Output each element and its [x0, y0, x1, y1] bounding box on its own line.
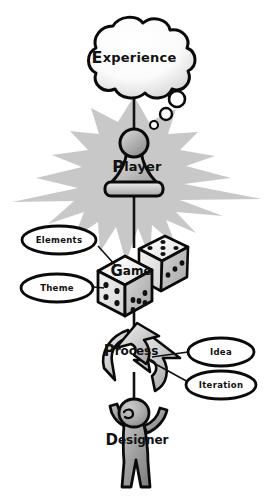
pawn-head: [120, 129, 148, 157]
diagram-canvas: Experience Player: [0, 0, 268, 501]
game-node[interactable]: Game: [98, 236, 188, 316]
callout-iteration[interactable]: Iteration: [186, 371, 256, 399]
leader-line-theme: [94, 287, 104, 288]
experience-node[interactable]: Experience: [89, 17, 196, 98]
diagram-svg: Experience Player: [0, 0, 268, 501]
process-node[interactable]: Process: [103, 323, 180, 391]
process-label: Process: [104, 342, 159, 360]
thought-bubble-large: [169, 91, 185, 107]
callout-elements-label: Elements: [36, 235, 83, 245]
thought-bubble-small: [150, 121, 158, 129]
pawn-base: [105, 182, 163, 196]
callout-idea[interactable]: Idea: [188, 338, 254, 366]
leader-line-elements: [98, 246, 116, 266]
callout-theme[interactable]: Theme: [21, 274, 93, 302]
callout-idea-label: Idea: [210, 347, 232, 357]
thought-bubble-medium: [160, 108, 172, 120]
game-label: Game: [110, 262, 151, 280]
callout-elements[interactable]: Elements: [22, 226, 96, 254]
player-label: Player: [112, 157, 162, 176]
designer-node[interactable]: Designer: [105, 399, 168, 487]
experience-label: Experience: [92, 48, 177, 67]
callout-iteration-label: Iteration: [199, 380, 244, 390]
callout-theme-label: Theme: [40, 283, 74, 293]
designer-label: Designer: [105, 431, 168, 449]
